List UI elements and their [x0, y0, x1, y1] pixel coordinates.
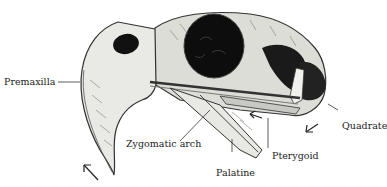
- label-premaxilla: Premaxilla: [4, 77, 55, 87]
- label-palatine: Palatine: [216, 168, 255, 178]
- arrow-up-left-icon: [84, 165, 98, 180]
- label-zygomatic-arch: Zygomatic arch: [126, 139, 201, 149]
- label-pterygoid: Pterygoid: [272, 151, 319, 161]
- label-quadrate: Quadrate: [342, 121, 387, 131]
- arrow-down-left-icon: [306, 124, 318, 132]
